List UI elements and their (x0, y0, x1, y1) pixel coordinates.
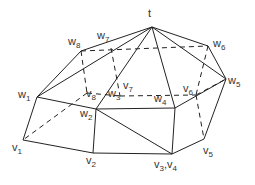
label-v7: v7 (123, 79, 134, 94)
label-t: t (148, 7, 151, 19)
polyhedron-diagram: t w7 w8 w6 w5 w1 w2 w3 w4 v8 v7 v6 v1 v2… (0, 0, 255, 185)
label-w3: w3 (107, 87, 121, 102)
label-w6: w6 (212, 37, 226, 52)
label-w4: w4 (153, 92, 167, 107)
label-v5: v5 (203, 144, 214, 159)
label-w7: w7 (96, 29, 110, 44)
label-w8: w8 (67, 35, 81, 50)
label-w1: w1 (17, 88, 31, 103)
label-v3-v4: v3,v4 (154, 158, 178, 173)
label-v2: v2 (86, 154, 97, 169)
label-v1: v1 (12, 141, 23, 156)
label-w2: w2 (79, 107, 93, 122)
label-v8: v8 (86, 87, 97, 102)
label-w5: w5 (227, 74, 241, 89)
